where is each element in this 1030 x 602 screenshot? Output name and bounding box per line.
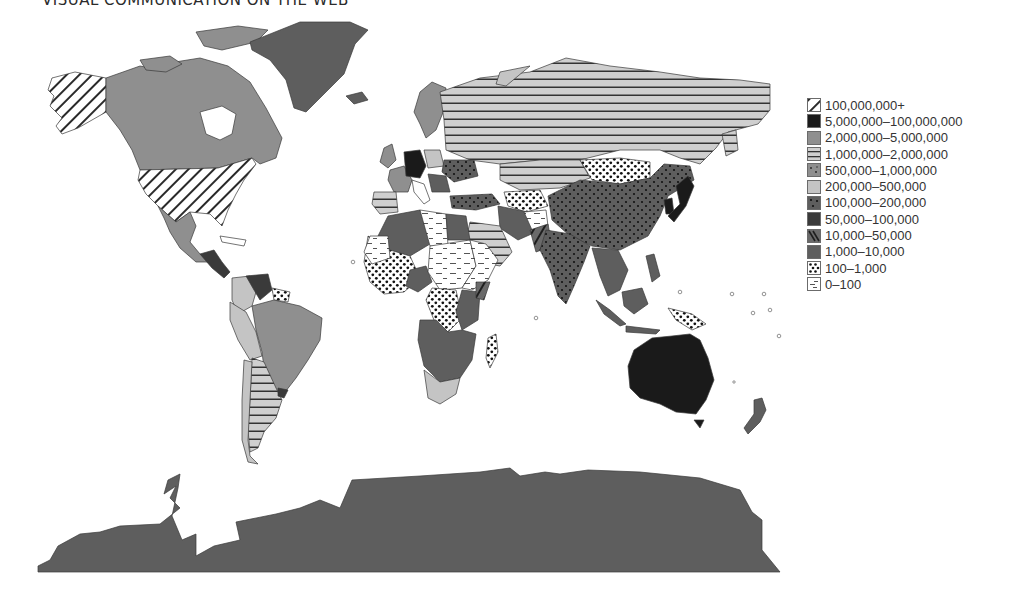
legend-label: 2,000,000–5,000,000 [825,130,948,145]
region-iceland [346,92,368,104]
grey-sparse-dots-swatch-icon [807,163,821,177]
white-dashes-swatch-icon [807,277,821,291]
dark-grey-dots-swatch-icon [807,196,821,210]
black-swatch-icon [807,114,821,128]
region-sumatra [596,300,626,326]
legend-item: 100,000–200,000 [807,195,962,211]
legend-label: 100,000,000+ [825,98,905,113]
region-ukraine [442,160,478,182]
region-egypt [446,214,470,240]
legend-item: 500,000–1,000,000 [807,162,962,178]
legend-label: 5,000,000–100,000,000 [825,114,962,129]
region-alaska [48,72,106,134]
legend-label: 10,000–50,000 [825,228,912,243]
region-uk [380,144,396,168]
horizontal-stripes-swatch-icon [807,147,821,161]
legend-item: 50,000–100,000 [807,211,962,227]
legend-item: 5,000,000–100,000,000 [807,113,962,129]
region-madagascar [486,334,498,368]
region-se-asia [592,248,628,296]
region-borneo [622,288,648,314]
region-iberia [372,192,398,214]
legend-label: 1,000,000–2,000,000 [825,147,948,162]
region-philippines [646,254,660,282]
legend-label: 50,000–100,000 [825,212,919,227]
very-dark-grey-swatch-icon [807,212,821,226]
region-tasmania [694,420,704,428]
light-grey-swatch-icon [807,180,821,194]
legend-label: 100,000–200,000 [825,195,926,210]
dark-diagonal-hatch-swatch-icon [807,229,821,243]
legend-label: 0–100 [825,277,861,292]
region-uruguay [278,388,288,398]
legend-item: 2,000,000–5,000,000 [807,130,962,146]
region-java [626,326,660,334]
medium-grey-swatch-icon [807,131,821,145]
legend-label: 100–1,000 [825,261,886,276]
region-kamchatka [722,130,738,156]
legend-label: 200,000–500,000 [825,179,926,194]
legend-item: 10,000–50,000 [807,227,962,243]
region-central-america [200,250,230,278]
legend-item: 100,000,000+ [807,97,962,113]
region-scandinavia [414,82,446,138]
region-balkans [428,174,450,192]
region-italy [412,180,430,204]
legend-item: 1,000,000–2,000,000 [807,146,962,162]
region-germany [404,150,426,178]
region-australia [628,334,714,414]
region-canada [106,58,282,170]
white-bold-dots-swatch-icon [807,261,821,275]
diagonal-hatch-swatch-icon [807,98,821,112]
world-map [0,0,1030,602]
legend-item: 0–100 [807,276,962,292]
dark-grey-swatch-icon [807,245,821,259]
legend-item: 100–1,000 [807,260,962,276]
region-ethiopia-diag [476,282,490,300]
region-turkey [450,194,500,210]
map-legend: 100,000,000+ 5,000,000–100,000,000 2,000… [807,97,962,293]
region-india [540,230,590,304]
region-russia [440,58,770,164]
region-poland [424,150,444,168]
legend-label: 1,000–10,000 [825,244,905,259]
region-png [668,308,706,330]
legend-item: 1,000–10,000 [807,244,962,260]
region-cuba [220,236,246,246]
legend-item: 200,000–500,000 [807,178,962,194]
region-new-zealand [744,398,766,434]
region-antarctica [38,468,780,572]
legend-label: 500,000–1,000,000 [825,163,937,178]
